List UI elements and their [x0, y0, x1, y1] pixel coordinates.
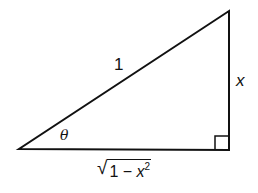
hypotenuse-label: 1 — [114, 56, 123, 73]
triangle — [19, 11, 229, 150]
opposite-side-label: x — [236, 72, 245, 89]
sqrt-sign: √ — [97, 158, 107, 177]
radicand-prefix: 1 − — [109, 163, 136, 180]
radicand: 1 − x2 — [107, 159, 151, 180]
angle-theta-label: θ — [60, 128, 68, 142]
radicand-exponent: 2 — [145, 161, 151, 172]
radicand-variable: x — [137, 163, 145, 180]
right-angle-marker — [215, 136, 229, 150]
adjacent-side-label: √ 1 − x2 — [97, 158, 151, 180]
